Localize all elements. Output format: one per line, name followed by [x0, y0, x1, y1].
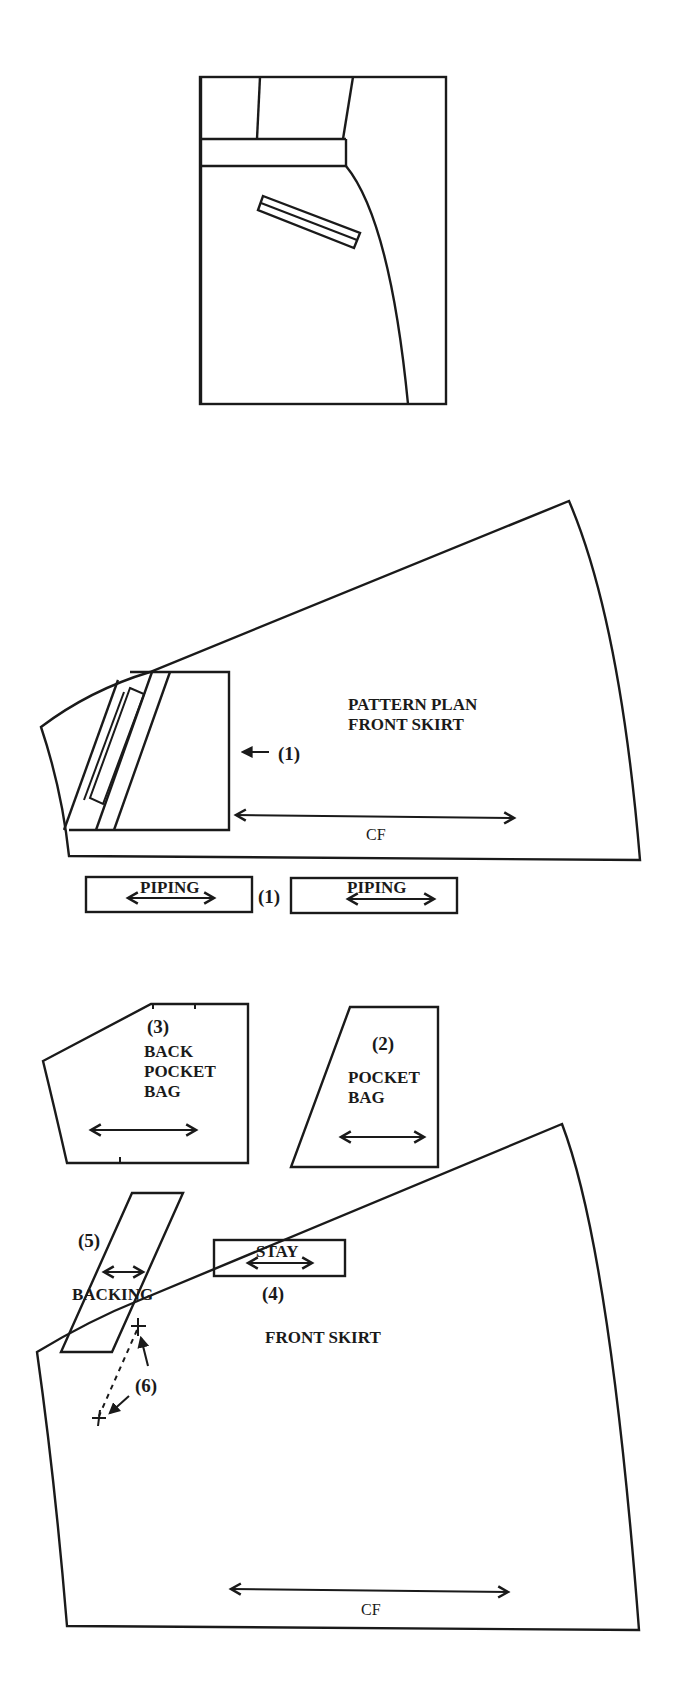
grainline-label: CF: [366, 826, 386, 843]
marker-arrow-up-icon: [141, 1338, 148, 1366]
back-pocket-bag-piece: (3) BACK POCKET BAG: [43, 1004, 248, 1163]
back-pocket-bag-number: (3): [147, 1016, 169, 1038]
piping-left-label: PIPING: [140, 878, 200, 897]
pattern-plan-front-skirt: (1) PATTERN PLAN FRONT SKIRT CF: [41, 501, 640, 860]
piping-slot: [90, 688, 144, 804]
pocket-bag-number: (2): [372, 1033, 394, 1055]
pocket-position-marks: (6): [92, 1318, 157, 1426]
sketch-frame: [200, 77, 446, 404]
pocket-bag-label-1: POCKET: [348, 1068, 420, 1087]
pattern-plan-title: PATTERN PLAN: [348, 695, 478, 714]
piping-pieces: PIPING (1) PIPING: [86, 877, 457, 913]
callout-number: (1): [278, 743, 300, 765]
skirt-front-sketch: [200, 77, 446, 404]
front-skirt-outline: [41, 501, 640, 860]
pocket-bag-label-2: BAG: [348, 1088, 385, 1107]
side-seam-curve: [346, 166, 408, 404]
back-pocket-bag-label-3: BAG: [144, 1082, 181, 1101]
yoke-seam: [257, 77, 260, 139]
front-skirt-title: FRONT SKIRT: [265, 1328, 381, 1347]
front-skirt-outline-final: [37, 1124, 639, 1630]
stay-label: STAY: [256, 1242, 299, 1261]
pattern-plan-subtitle: FRONT SKIRT: [348, 715, 464, 734]
grainline-arrow-icon-final: [231, 1589, 508, 1592]
back-pocket-bag-label-2: POCKET: [144, 1062, 216, 1081]
pocket-opening-line: [64, 680, 118, 830]
stay-piece: STAY (4): [214, 1240, 345, 1305]
grainline-label-final: CF: [361, 1601, 381, 1618]
backing-number: (5): [78, 1230, 100, 1252]
back-pocket-bag-label-1: BACK: [144, 1042, 194, 1061]
grainline-arrow-icon: [236, 815, 514, 818]
marker-number: (6): [135, 1375, 157, 1397]
front-skirt-piece: FRONT SKIRT (6) CF: [37, 1124, 639, 1630]
side-seam-upper: [343, 77, 353, 139]
piping-right-label: PIPING: [347, 878, 407, 897]
piping-number: (1): [258, 886, 280, 908]
pocket-bag-piece: (2) POCKET BAG: [291, 1007, 438, 1167]
marker-arrow-down-icon: [110, 1396, 129, 1413]
stay-number: (4): [262, 1283, 284, 1305]
pocket-dashed-line: [99, 1330, 137, 1416]
backing-label: BACKING: [72, 1285, 153, 1304]
pocket-bag-outline: [291, 1007, 438, 1167]
pattern-diagram: (1) PATTERN PLAN FRONT SKIRT CF PIPING (…: [0, 0, 676, 1683]
